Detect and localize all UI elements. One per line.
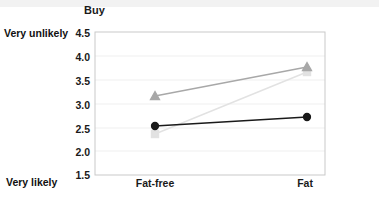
y-tick-label-2-0: 2.0 xyxy=(68,146,90,158)
y-tick-label-2-5: 2.5 xyxy=(68,123,90,135)
series-square-light xyxy=(152,69,311,138)
series-triangle-mid xyxy=(151,63,312,100)
y-tick-label-4-5: 4.5 xyxy=(68,27,90,39)
y-tick-label-1-5: 1.5 xyxy=(68,169,90,181)
x-tick-label-fat-free: Fat-free xyxy=(120,177,190,189)
anchor-label-low: Very likely xyxy=(6,176,57,188)
y-tick-label-4-0: 4.0 xyxy=(68,51,90,63)
y-tick-label-3-5: 3.5 xyxy=(68,75,90,87)
series-circle-dark xyxy=(152,114,311,130)
chart-figure: Buy Very unlikely Very likely 4.5 4.0 3.… xyxy=(0,0,379,200)
anchor-label-high: Very unlikely xyxy=(4,27,68,39)
chart-title: Buy xyxy=(84,4,105,16)
x-tick-label-fat: Fat xyxy=(270,177,340,189)
y-tick-label-3-0: 3.0 xyxy=(68,99,90,111)
